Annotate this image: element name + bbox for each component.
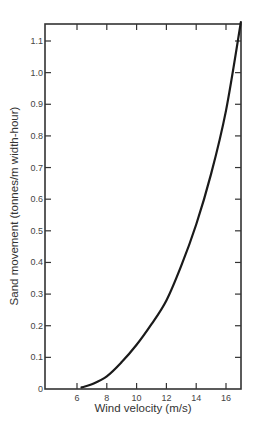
plot-frame [45,24,241,389]
y-tick-label: 0.1 [30,352,43,362]
y-axis-label: Sand movement (tonnes/m width-hour) [8,106,20,305]
y-tick-label: 0.5 [30,226,43,236]
x-axis-label: Wind velocity (m/s) [94,402,191,414]
sand-movement-chart: 00.10.20.30.40.50.60.70.80.91.01.1 68101… [0,0,268,431]
y-tick-label: 0.4 [30,257,43,267]
y-axis-ticks: 00.10.20.30.40.50.60.70.80.91.01.1 [30,36,241,394]
x-tick-label: 6 [74,393,79,403]
y-tick-label: 0 [38,384,43,394]
y-tick-label: 0.2 [30,321,43,331]
data-curve [82,22,241,387]
y-tick-label: 0.9 [30,99,43,109]
y-tick-label: 1.1 [30,36,43,46]
x-tick-label: 16 [221,393,231,403]
y-tick-label: 0.8 [30,131,43,141]
x-axis-ticks: 6810121416 [74,24,231,403]
y-tick-label: 1.0 [30,68,43,78]
y-tick-label: 0.7 [30,163,43,173]
y-tick-label: 0.3 [30,289,43,299]
y-tick-label: 0.6 [30,194,43,204]
x-tick-label: 14 [191,393,201,403]
